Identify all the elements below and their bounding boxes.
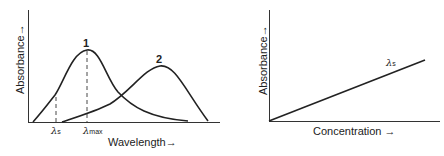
left-x-axis-label: Wavelength→ bbox=[108, 136, 177, 148]
curve-1-label: 1 bbox=[83, 37, 89, 49]
lambda-s-label: λs bbox=[51, 125, 61, 136]
lambda-max-label: λmax bbox=[83, 125, 103, 136]
left-y-axis-label: Absorbance→ bbox=[14, 24, 26, 94]
absorbance-concentration-line bbox=[269, 60, 425, 121]
right-x-axis-label: Concentration → bbox=[313, 125, 396, 137]
line-label: λs bbox=[386, 57, 396, 68]
right-y-axis-label: Absorbance→ bbox=[257, 25, 269, 95]
curve-2 bbox=[62, 66, 208, 122]
curve-2-label: 2 bbox=[156, 53, 162, 65]
